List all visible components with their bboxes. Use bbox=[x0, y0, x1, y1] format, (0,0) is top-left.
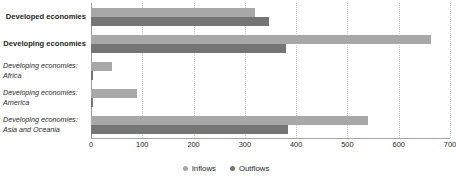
gridline-700 bbox=[450, 3, 451, 138]
bar-group bbox=[91, 116, 450, 134]
legend-swatch-icon bbox=[183, 166, 188, 171]
x-axis-tick-label: 200 bbox=[187, 140, 199, 149]
bar-group bbox=[91, 35, 450, 53]
y-axis-label: Developed economies bbox=[0, 12, 88, 22]
plot-area bbox=[91, 3, 450, 138]
y-axis-label-line: Developing economies: bbox=[3, 115, 88, 125]
x-axis-tick-label: 700 bbox=[444, 140, 456, 149]
y-axis-label-line: America bbox=[3, 98, 88, 108]
legend-item[interactable]: Outflows bbox=[230, 164, 269, 173]
x-axis-tick-label: 600 bbox=[393, 140, 405, 149]
bar-inflows bbox=[91, 89, 137, 98]
bar-outflows bbox=[91, 98, 93, 107]
y-axis-label-line: Developing economies bbox=[0, 39, 86, 49]
x-axis-tick-label: 300 bbox=[239, 140, 251, 149]
y-axis-label-line: Africa bbox=[3, 71, 88, 81]
bar-outflows bbox=[91, 17, 269, 26]
bar-outflows bbox=[91, 125, 288, 134]
bar-inflows bbox=[91, 62, 112, 71]
x-axis-tick-label: 100 bbox=[136, 140, 148, 149]
y-axis-labels: Developed economiesDeveloping economiesD… bbox=[0, 3, 88, 138]
chart-legend: InflowsOutflows bbox=[0, 164, 452, 173]
x-axis-tick-label: 400 bbox=[290, 140, 302, 149]
y-axis-label-line: Developing economies: bbox=[3, 61, 88, 71]
bar-group bbox=[91, 89, 450, 107]
bar-group bbox=[91, 8, 450, 26]
legend-swatch-icon bbox=[230, 166, 235, 171]
x-axis-tick-label: 0 bbox=[89, 140, 93, 149]
bar-outflows bbox=[91, 44, 286, 53]
bar-inflows bbox=[91, 8, 255, 17]
bar-inflows bbox=[91, 35, 431, 44]
y-axis-label: Developing economies:America bbox=[0, 88, 88, 107]
legend-item[interactable]: Inflows bbox=[183, 164, 216, 173]
x-axis-ticks: 0100200300400500600700 bbox=[91, 140, 450, 154]
y-axis-label-line: Asia and Oceania bbox=[3, 125, 88, 135]
legend-label: Inflows bbox=[192, 164, 216, 173]
y-axis-label-line: Developed economies bbox=[0, 12, 86, 22]
bar-rows bbox=[91, 3, 450, 138]
bar-group bbox=[91, 62, 450, 80]
x-axis-tick-label: 500 bbox=[341, 140, 353, 149]
legend-label: Outflows bbox=[239, 164, 269, 173]
y-axis-label: Developing economies:Africa bbox=[0, 61, 88, 80]
x-axis-line bbox=[91, 138, 450, 139]
y-axis-label: Developing economies:Asia and Oceania bbox=[0, 115, 88, 134]
bar-outflows bbox=[91, 71, 93, 80]
y-axis-label-line: Developing economies: bbox=[3, 88, 88, 98]
y-axis-label: Developing economies bbox=[0, 39, 88, 49]
bar-inflows bbox=[91, 116, 368, 125]
